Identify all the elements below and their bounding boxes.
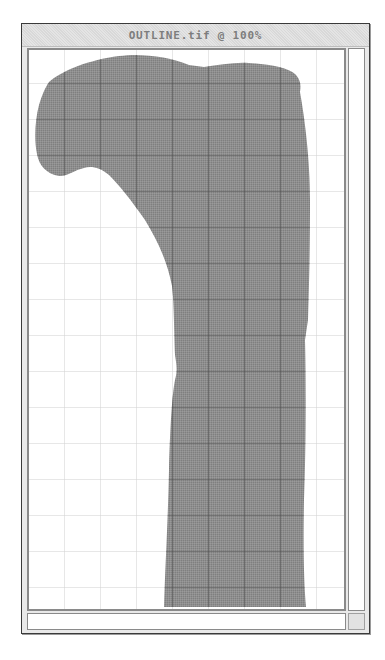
image-document-window: OUTLINE.tif @ 100% (21, 23, 370, 634)
outline-image (29, 50, 344, 609)
title-bar[interactable]: OUTLINE.tif @ 100% (22, 24, 369, 47)
resize-handle[interactable] (348, 613, 365, 630)
vertical-scrollbar[interactable] (348, 48, 365, 611)
horizontal-scrollbar[interactable] (27, 613, 346, 630)
window-title: OUTLINE.tif @ 100% (129, 29, 263, 42)
image-canvas[interactable] (27, 48, 346, 611)
